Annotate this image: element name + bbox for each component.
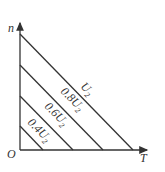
x-axis-label: T (140, 151, 148, 165)
speed-torque-diagram: n T O U2 0.8U2 0.6U2 0.4U2 (0, 0, 165, 172)
svg-text:0.4U2: 0.4U2 (23, 115, 54, 146)
line-0.8u2 (20, 65, 103, 150)
origin-label: O (7, 147, 16, 161)
label-0.4u2: 0.4U2 (23, 115, 54, 146)
y-axis-label: n (8, 21, 14, 35)
